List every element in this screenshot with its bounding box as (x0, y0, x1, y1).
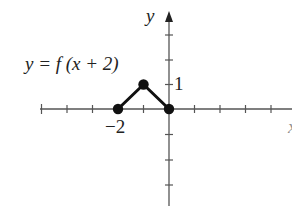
equation-label: y = f (x + 2) (23, 53, 119, 75)
point-marker (164, 104, 174, 114)
graph: y y = f (x + 2) 1 −2 x (0, 0, 292, 206)
tick-label-y-1: 1 (174, 73, 184, 94)
point-marker (138, 79, 148, 89)
y-axis-arrow-icon (165, 11, 173, 22)
y-axis-label: y (144, 5, 155, 26)
tick-label-x-neg2: −2 (105, 116, 125, 137)
x-axis-label: x (287, 116, 292, 137)
point-marker (113, 104, 123, 114)
